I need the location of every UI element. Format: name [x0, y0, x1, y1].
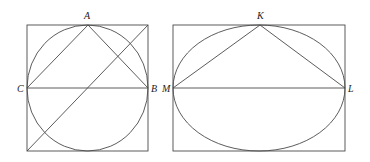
segment-kl: [260, 25, 345, 88]
label-m: M: [161, 83, 171, 94]
label-k: K: [256, 10, 265, 21]
label-c: C: [17, 83, 24, 94]
figure-ellipse-in-rectangle: K M L: [161, 10, 354, 151]
figure-circle-in-square: A C B: [17, 10, 157, 151]
label-a: A: [83, 10, 91, 21]
label-l: L: [347, 83, 354, 94]
geometry-diagram: A C B K M L: [0, 0, 370, 162]
segment-ca: [27, 25, 88, 88]
segment-mk: [173, 25, 260, 88]
label-b: B: [151, 83, 157, 94]
